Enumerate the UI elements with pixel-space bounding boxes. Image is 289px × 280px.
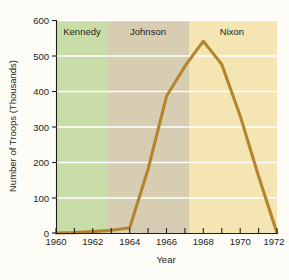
x-axis-title: Year bbox=[156, 254, 175, 265]
x-tick-label-1972: 1972 bbox=[263, 236, 284, 247]
y-tick-label-100: 100 bbox=[33, 193, 49, 204]
y-tick-label-600: 600 bbox=[33, 15, 49, 26]
y-axis-tick-labels: 600 500 400 300 200 100 0 bbox=[33, 15, 49, 239]
x-tick-label-1966: 1966 bbox=[156, 236, 177, 247]
x-tick-label-1970: 1970 bbox=[230, 236, 251, 247]
y-tick-label-200: 200 bbox=[33, 157, 49, 168]
x-tick-label-1968: 1968 bbox=[193, 236, 214, 247]
band-label-nixon: Nixon bbox=[220, 26, 244, 37]
band-label-johnson: Johnson bbox=[130, 26, 166, 37]
x-tick-label-1960: 1960 bbox=[45, 236, 66, 247]
x-tick-label-1964: 1964 bbox=[119, 236, 140, 247]
x-tick-label-1962: 1962 bbox=[82, 236, 103, 247]
y-tick-label-300: 300 bbox=[33, 122, 49, 133]
x-axis-tick-labels: 1960 1962 1964 1966 1968 1970 1972 bbox=[45, 236, 284, 247]
y-axis-ticks bbox=[52, 21, 56, 234]
y-tick-label-500: 500 bbox=[33, 51, 49, 62]
chart-figure: 600 500 400 300 200 100 0 1960 1962 1964… bbox=[0, 0, 289, 280]
y-tick-label-400: 400 bbox=[33, 86, 49, 97]
troops-line-chart: 600 500 400 300 200 100 0 1960 1962 1964… bbox=[0, 0, 289, 280]
band-label-kennedy: Kennedy bbox=[63, 26, 101, 37]
y-axis-title: Number of Troops (Thousands) bbox=[7, 60, 18, 192]
